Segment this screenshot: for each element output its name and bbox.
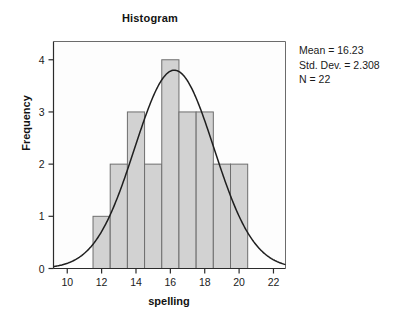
x-axis-tick-label: 18 — [199, 276, 211, 288]
statistics-annotation: Mean = 16.23 Std. Dev. = 2.308 N = 22 — [299, 43, 380, 87]
histogram-figure: Histogram 1012141618202201234 Frequency … — [0, 0, 404, 321]
mean-label: Mean = 16.23 — [299, 43, 380, 58]
histogram-bar — [179, 112, 196, 269]
histogram-bar — [162, 60, 179, 269]
histogram-bar — [196, 112, 213, 269]
y-axis-tick-label: 3 — [39, 106, 45, 118]
x-axis-tick-label: 16 — [165, 276, 177, 288]
x-axis-tick-label: 12 — [96, 276, 108, 288]
x-axis-tick-label: 22 — [268, 276, 280, 288]
y-axis-tick-label: 2 — [39, 158, 45, 170]
y-axis-tick-label: 4 — [39, 54, 45, 66]
n-label: N = 22 — [299, 72, 380, 87]
std-dev-label: Std. Dev. = 2.308 — [299, 58, 380, 73]
y-axis-tick-label: 1 — [39, 210, 45, 222]
histogram-bar — [213, 164, 230, 268]
histogram-bar — [110, 164, 127, 268]
x-axis-tick-label: 10 — [61, 276, 73, 288]
x-axis-title: spelling — [53, 295, 285, 307]
y-axis-tick-label: 0 — [39, 263, 45, 275]
x-axis-tick-label: 20 — [233, 276, 245, 288]
y-axis-title: Frequency — [20, 78, 32, 168]
histogram-bar — [145, 164, 162, 268]
x-axis-tick-label: 14 — [130, 276, 142, 288]
histogram-bar — [127, 112, 144, 269]
histogram-bar — [93, 216, 110, 268]
